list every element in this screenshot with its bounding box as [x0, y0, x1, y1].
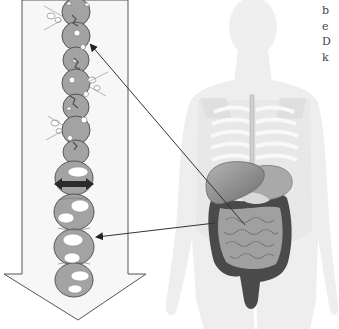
small-intestine	[218, 207, 283, 269]
side-text-line: e	[322, 19, 339, 35]
peristalsis-diagram: b e D k	[0, 0, 339, 329]
head-shape	[229, 0, 277, 57]
side-text-line: b	[322, 3, 339, 19]
side-text-column: b e D k	[322, 3, 339, 65]
diagram-canvas	[0, 0, 339, 329]
side-text-line: k	[322, 50, 339, 66]
side-text-line: D	[322, 34, 339, 50]
neck-shape	[234, 50, 272, 82]
